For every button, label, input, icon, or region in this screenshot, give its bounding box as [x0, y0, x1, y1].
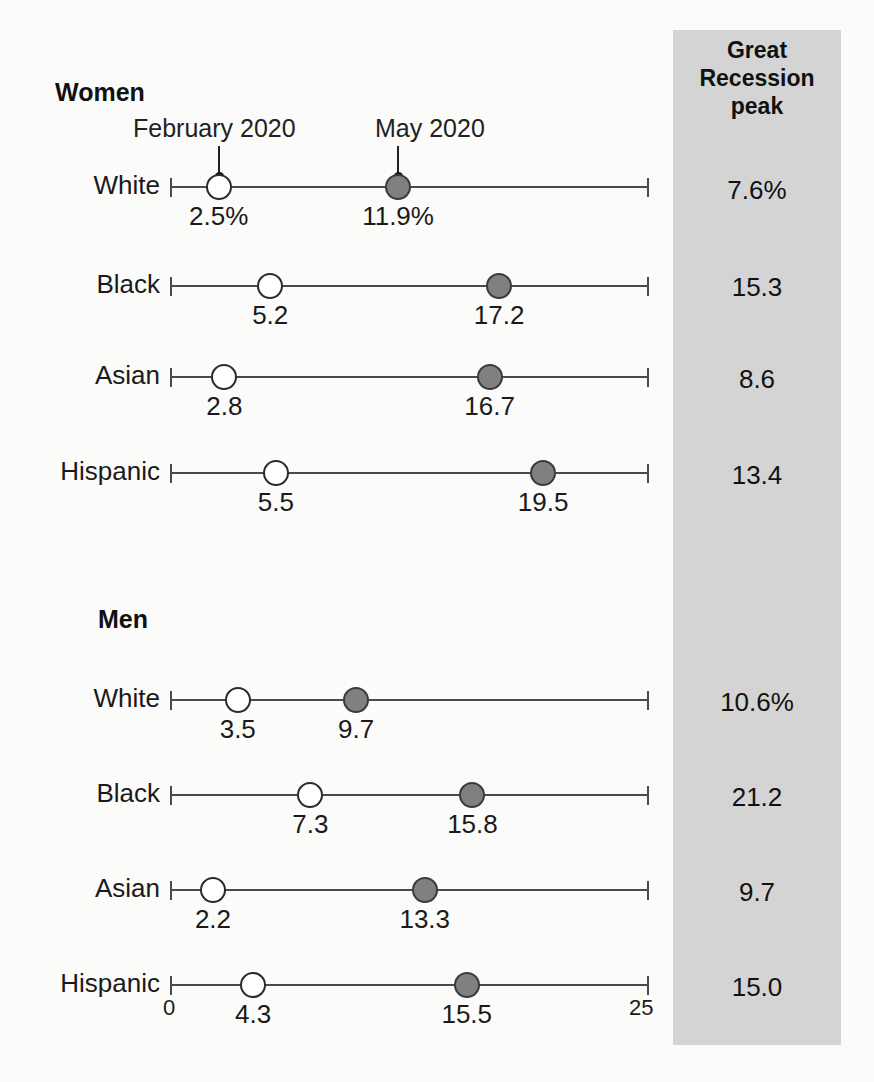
peak-value-women-hispanic: 13.4 [673, 460, 841, 491]
row-label-women-hispanic: Hispanic [60, 456, 160, 487]
peak-value-women-asian: 8.6 [673, 364, 841, 395]
marker-february-2020[interactable] [225, 687, 251, 713]
panel-header: Great Recession peak [673, 36, 841, 120]
axis-cap-right [647, 277, 649, 296]
group-heading-men: Men [98, 605, 148, 634]
value-label-february-2020: 3.5 [220, 714, 256, 745]
marker-may-2020[interactable] [454, 972, 480, 998]
value-label-may-2020: 13.3 [399, 904, 450, 935]
marker-february-2020[interactable] [211, 364, 237, 390]
callout-february-2020: February 2020 [133, 114, 296, 143]
axis-cap-left [170, 976, 172, 995]
row-label-women-black: Black [96, 269, 160, 300]
axis-cap-right [647, 976, 649, 995]
axis-cap-left [170, 881, 172, 900]
marker-may-2020[interactable] [530, 460, 556, 486]
row-axis-line [171, 889, 648, 891]
row-label-men-white: White [94, 683, 160, 714]
row-axis-line [171, 794, 648, 796]
axis-cap-right [647, 786, 649, 805]
panel-header-line2: Recession [673, 64, 841, 92]
axis-cap-right [647, 691, 649, 710]
value-label-may-2020: 16.7 [464, 391, 515, 422]
value-label-february-2020: 5.5 [258, 487, 294, 518]
marker-may-2020[interactable] [343, 687, 369, 713]
axis-label-min: 0 [163, 995, 175, 1021]
chart-root: Great Recession peak 7.6% 15.3 8.6 13.4 … [0, 0, 874, 1082]
value-label-february-2020: 2.8 [206, 391, 242, 422]
value-label-february-2020: 2.5% [189, 201, 248, 232]
axis-label-max: 25 [629, 995, 653, 1021]
row-label-men-hispanic: Hispanic [60, 968, 160, 999]
value-label-february-2020: 5.2 [252, 300, 288, 331]
peak-value-women-black: 15.3 [673, 272, 841, 303]
peak-value-women-white: 7.6% [673, 175, 841, 206]
marker-february-2020[interactable] [206, 174, 232, 200]
value-label-may-2020: 15.8 [447, 809, 498, 840]
axis-cap-right [647, 368, 649, 387]
row-axis-line [171, 285, 648, 287]
marker-may-2020[interactable] [477, 364, 503, 390]
axis-cap-right [647, 464, 649, 483]
axis-cap-left [170, 368, 172, 387]
panel-header-line3: peak [673, 92, 841, 120]
axis-cap-right [647, 178, 649, 197]
row-axis-line [171, 376, 648, 378]
row-label-men-black: Black [96, 778, 160, 809]
row-label-women-white: White [94, 170, 160, 201]
group-heading-women: Women [55, 78, 145, 107]
marker-february-2020[interactable] [200, 877, 226, 903]
axis-cap-left [170, 277, 172, 296]
value-label-february-2020: 2.2 [195, 904, 231, 935]
row-label-men-asian: Asian [95, 873, 160, 904]
value-label-may-2020: 11.9% [362, 201, 434, 232]
value-label-may-2020: 19.5 [518, 487, 569, 518]
row-label-women-asian: Asian [95, 360, 160, 391]
value-label-february-2020: 4.3 [235, 999, 271, 1030]
axis-cap-left [170, 464, 172, 483]
value-label-may-2020: 17.2 [474, 300, 525, 331]
marker-may-2020[interactable] [385, 174, 411, 200]
marker-february-2020[interactable] [263, 460, 289, 486]
marker-february-2020[interactable] [297, 782, 323, 808]
marker-may-2020[interactable] [459, 782, 485, 808]
peak-value-men-black: 21.2 [673, 782, 841, 813]
marker-february-2020[interactable] [257, 273, 283, 299]
marker-may-2020[interactable] [486, 273, 512, 299]
value-label-may-2020: 15.5 [441, 999, 492, 1030]
axis-cap-left [170, 178, 172, 197]
peak-value-men-asian: 9.7 [673, 877, 841, 908]
value-label-may-2020: 9.7 [338, 714, 374, 745]
callout-may-2020: May 2020 [375, 114, 485, 143]
axis-cap-right [647, 881, 649, 900]
row-axis-line [171, 472, 648, 474]
axis-cap-left [170, 786, 172, 805]
marker-may-2020[interactable] [412, 877, 438, 903]
marker-february-2020[interactable] [240, 972, 266, 998]
panel-header-line1: Great [673, 36, 841, 64]
value-label-february-2020: 7.3 [292, 809, 328, 840]
axis-cap-left [170, 691, 172, 710]
peak-value-men-white: 10.6% [673, 687, 841, 718]
peak-value-men-hispanic: 15.0 [673, 972, 841, 1003]
